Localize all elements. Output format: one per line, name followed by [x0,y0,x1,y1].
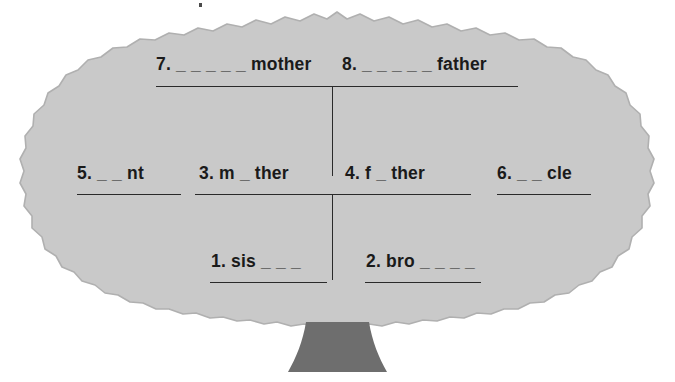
blank-6-rule[interactable] [497,194,591,195]
blank-8-label: 8. _ _ _ _ _ father [342,56,487,74]
blank-2-rule[interactable] [365,282,481,283]
blank-6-label: 6. _ _ cle [497,165,572,183]
blank-entry-7[interactable]: 7. _ _ _ _ _ mother [156,56,332,90]
blank-entry-3[interactable]: 3. m _ ther [199,165,332,197]
tree-trunk [288,322,387,372]
blank-entry-4[interactable]: 4. f _ ther [345,165,471,197]
blank-1-label: 1. sis _ _ _ [211,253,301,271]
blank-1-rule[interactable] [210,282,327,283]
blank-8-rule[interactable] [332,86,518,87]
blank-5-label: 5. _ _ nt [77,165,144,183]
blank-4-rule[interactable] [332,194,471,195]
blank-entry-8[interactable]: 8. _ _ _ _ _ father [342,56,518,90]
blank-entry-1[interactable]: 1. sis _ _ _ [211,253,327,285]
blank-entry-2[interactable]: 2. bro _ _ _ _ [366,253,482,285]
blank-3-rule[interactable] [195,194,332,195]
blank-entry-5[interactable]: 5. _ _ nt [77,165,181,197]
blank-5-rule[interactable] [77,194,181,195]
page-speck [199,3,202,7]
blank-4-label: 4. f _ ther [345,165,425,183]
blank-7-rule[interactable] [156,86,332,87]
connector-grandparents-to-parents [332,86,333,176]
blank-entry-6[interactable]: 6. _ _ cle [497,165,591,197]
blank-7-label: 7. _ _ _ _ _ mother [156,56,312,74]
family-tree-worksheet: 7. _ _ _ _ _ mother 8. _ _ _ _ _ father … [0,0,675,382]
blank-2-label: 2. bro _ _ _ _ [366,253,475,271]
connector-parents-to-children [332,194,333,280]
blank-3-label: 3. m _ ther [199,165,289,183]
